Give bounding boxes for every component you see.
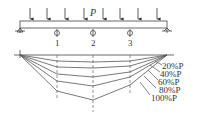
left-support (15, 28, 25, 33)
point-label-1: 1 (55, 38, 60, 48)
point-label-3: 3 (128, 38, 133, 48)
measure-points (55, 29, 133, 37)
point-label-2: 2 (91, 38, 96, 48)
right-support (162, 28, 172, 33)
curve-label-100: 100%P (151, 93, 177, 103)
section-lines (57, 55, 130, 112)
deflection-curves (20, 55, 167, 100)
load-label: P (89, 7, 96, 18)
beam (20, 21, 167, 28)
beam-deflection-diagram: P 1 2 3 (0, 0, 200, 128)
